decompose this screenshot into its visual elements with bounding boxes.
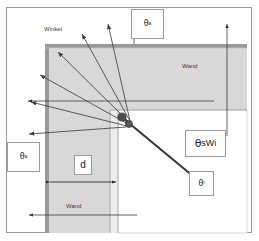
label-wand-top: Wand bbox=[182, 63, 197, 69]
theta-i-box: θi bbox=[189, 171, 214, 196]
label-winkel: Winkel bbox=[44, 26, 62, 32]
thickness-label: d bbox=[80, 160, 86, 170]
thickness-label-box: d bbox=[74, 155, 92, 175]
theta-a-top-subscript: a bbox=[149, 22, 152, 27]
diagram-canvas: Winkel Wand Wand θa θa θi θsWi d bbox=[0, 0, 259, 241]
theta-swi-box: θsWi bbox=[185, 130, 226, 157]
source-node-primary bbox=[118, 113, 126, 121]
theta-swi-subscript: sWi bbox=[201, 139, 216, 148]
theta-i-subscript: i bbox=[203, 181, 204, 186]
diagram-graphics bbox=[0, 0, 259, 241]
theta-a-left-box: θa bbox=[7, 142, 40, 172]
theta-a-left-subscript: a bbox=[25, 155, 28, 160]
theta-a-top-box: θa bbox=[131, 9, 164, 39]
label-wand-bottom: Wand bbox=[66, 203, 81, 209]
theta-swi-symbol: θ bbox=[195, 138, 202, 149]
source-node-secondary bbox=[125, 120, 132, 127]
